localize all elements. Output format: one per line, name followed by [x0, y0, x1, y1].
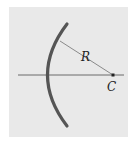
- radius-label: R: [80, 50, 90, 64]
- mirror-diagram: R C: [0, 0, 139, 142]
- center-of-curvature-point: [112, 74, 115, 77]
- center-label: C: [107, 80, 116, 94]
